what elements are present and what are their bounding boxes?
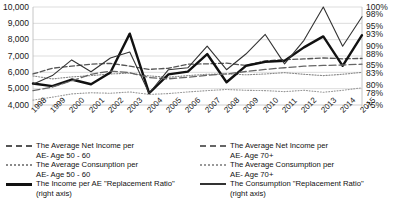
legend-item[interactable]: The Consumption "Replacement Ratio"(righ…: [200, 179, 396, 198]
series-line: [33, 34, 362, 94]
plot-area: 10,0009,0008,0007,0006,0005,0004,000 100…: [0, 0, 400, 140]
legend-label-line2: (right axis): [230, 189, 396, 199]
series-line: [33, 7, 362, 93]
legend-item[interactable]: The Average Net Income perAE- Age 50 - 6…: [6, 141, 202, 160]
legend-label-line2: AE- Age 70+: [230, 151, 396, 161]
plot-svg: [0, 0, 400, 140]
legend-label-line2: AE- Age 70+: [230, 170, 396, 180]
legend-label: The Consumption "Replacement Ratio": [230, 179, 396, 189]
legend-item[interactable]: The Average Consumption perAE- Age 70+: [200, 160, 396, 179]
legend-item[interactable]: The Average Consunption perAE- Age 50 - …: [6, 160, 202, 179]
legend-line-sample-dotted: [6, 164, 32, 166]
legend-label: The Income per AE "Replacement Ratio": [36, 179, 202, 189]
legend-item[interactable]: The Income per AE "Replacement Ratio"(ri…: [6, 179, 202, 198]
chart-legend: The Average Net Income perAE- Age 50 - 6…: [0, 141, 400, 213]
legend-line-sample-long-dash: [200, 145, 226, 147]
legend-label: The Average Consunption per: [36, 160, 202, 170]
series-line: [33, 64, 362, 90]
legend-line-sample-solid-thin: [200, 183, 226, 184]
legend-label-line2: AE- Age 50 - 60: [36, 170, 202, 180]
legend-label-line2: (right axis): [36, 189, 202, 199]
legend-label-line2: AE- Age 50 - 60: [36, 151, 202, 161]
legend-column-left: The Average Net Income perAE- Age 50 - 6…: [6, 141, 202, 199]
legend-label: The Average Net Income per: [36, 141, 202, 151]
legend-item[interactable]: The Average Net Income perAE- Age 70+: [200, 141, 396, 160]
legend-line-sample-solid-thick: [6, 183, 32, 185]
legend-column-right: The Average Net Income perAE- Age 70+The…: [200, 141, 396, 199]
legend-label: The Average Consumption per: [230, 160, 396, 170]
chart-container: 10,0009,0008,0007,0006,0005,0004,000 100…: [0, 0, 400, 213]
legend-line-sample-dashed: [6, 145, 32, 147]
legend-line-sample-fine-dot: [200, 164, 226, 166]
legend-label: The Average Net Income per: [230, 141, 396, 151]
